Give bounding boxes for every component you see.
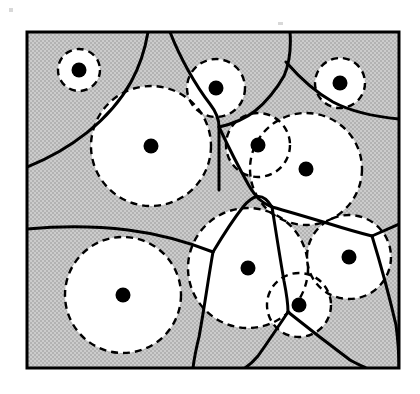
site-point-site-center-upper <box>251 138 266 153</box>
site-point-site-top-left-large <box>144 139 159 154</box>
site-point-site-top-right-small <box>333 76 348 91</box>
site-point-site-bottom-left <box>116 288 131 303</box>
site-point-site-right-middle <box>342 250 357 265</box>
scan-speck-top-left <box>9 8 13 12</box>
figure-root <box>0 0 420 394</box>
site-point-site-bottom-middle <box>241 261 256 276</box>
site-point-site-right-large <box>299 162 314 177</box>
site-point-site-bottom-small <box>292 298 307 313</box>
voronoi-disk-diagram <box>0 0 420 394</box>
site-point-site-top-left-small <box>72 63 87 78</box>
scan-speck-top-middle <box>278 22 283 25</box>
site-point-site-top-middle <box>209 81 224 96</box>
